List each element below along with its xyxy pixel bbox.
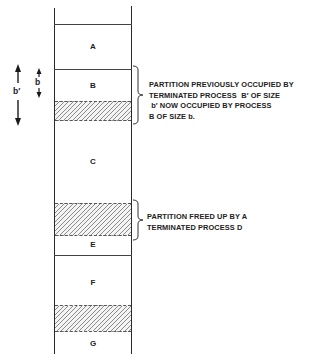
annotation-d-line-1: PARTITION FREED UP BY A: [147, 212, 247, 223]
partition-f: F: [55, 256, 131, 305]
partition-d-freed-hatched: [55, 203, 131, 236]
annotation-b-line-4: B OF SIZE b.: [149, 112, 294, 123]
partition-b-label: B: [55, 81, 131, 90]
partition-a: A: [55, 25, 131, 69]
partition-c: C: [55, 121, 131, 203]
b-prime-label: b′: [13, 86, 20, 96]
annotation-b-line-2: TERMINATED PROCESS B′ OF SIZE: [149, 91, 294, 102]
b-label: b: [35, 77, 40, 87]
partition-e: E: [55, 236, 131, 255]
partition-f-free-hatched: [55, 305, 131, 332]
partition-c-label: C: [55, 157, 131, 166]
partition-b: B: [55, 70, 131, 101]
partition-g-label: G: [55, 339, 131, 348]
annotation-d-text: PARTITION FREED UP BY A TERMINATED PROCE…: [147, 212, 247, 233]
partition-e-label: E: [55, 240, 131, 249]
partition-b-unused-hatched: [55, 101, 131, 121]
partition-a-label: A: [55, 42, 131, 51]
brace-d-icon: [132, 199, 146, 241]
memory-right-border: [131, 6, 132, 354]
brace-b-icon: [132, 64, 146, 126]
partition-f-label: F: [55, 278, 131, 287]
annotation-b-line-1: PARTITION PREVIOUSLY OCCUPIED BY: [149, 80, 294, 91]
partition-g: G: [55, 332, 131, 353]
annotation-b-text: PARTITION PREVIOUSLY OCCUPIED BY TERMINA…: [149, 80, 294, 122]
annotation-b-line-3: b′ NOW OCCUPIED BY PROCESS: [149, 101, 294, 112]
annotation-d-line-2: TERMINATED PROCESS D: [147, 223, 247, 234]
